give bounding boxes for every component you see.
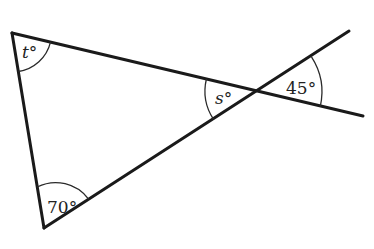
geometry-diagram: t° s° 45° 70°	[0, 0, 374, 249]
angle-label-t: t°	[22, 42, 37, 62]
angle-label-s: s°	[215, 88, 232, 108]
angle-arc-s	[205, 79, 213, 119]
segment-bottom-to-upper-right	[44, 31, 349, 228]
segment-top-left-to-lower-right	[12, 33, 363, 116]
angle-label-45: 45°	[286, 78, 316, 98]
angle-label-70: 70°	[47, 197, 77, 217]
